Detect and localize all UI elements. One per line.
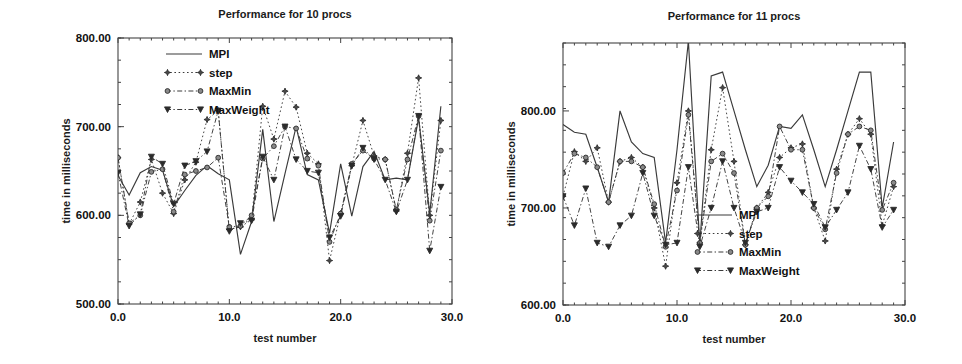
data-point-marker (316, 163, 321, 168)
data-point-marker (360, 117, 366, 123)
y-axis-tick-label: 500.00 (76, 298, 111, 310)
data-point-marker (149, 169, 154, 174)
data-point-marker (868, 167, 874, 173)
data-point-marker (617, 223, 623, 229)
data-point-marker (651, 213, 657, 219)
data-point-marker (652, 202, 657, 207)
data-point-marker (777, 124, 782, 129)
data-point-marker (857, 124, 862, 129)
data-point-marker (427, 212, 433, 218)
y-axis-tick-label: 800.00 (76, 32, 111, 44)
chart-title: Performance for 11 procs (668, 10, 801, 22)
y-axis-tick-label: 600.00 (76, 209, 111, 221)
x-axis-title: test number (254, 332, 318, 344)
data-point-marker (868, 128, 873, 133)
data-point-marker (800, 147, 805, 152)
data-point-marker (326, 257, 332, 263)
series-step (560, 85, 897, 270)
data-point-marker (606, 244, 612, 250)
data-point-marker (393, 209, 399, 215)
data-point-marker (427, 248, 433, 254)
data-point-marker (294, 126, 299, 131)
data-point-marker (304, 168, 310, 174)
data-point-marker (305, 156, 310, 161)
x-axis-tick-label: 10.0 (218, 311, 240, 323)
data-point-marker (160, 161, 166, 167)
data-point-marker (720, 151, 725, 156)
data-point-marker (271, 144, 276, 149)
data-point-marker (846, 132, 851, 137)
data-point-marker (583, 155, 588, 160)
data-point-marker (165, 89, 170, 94)
data-point-marker (182, 163, 188, 169)
series-line-mpi (563, 41, 894, 245)
data-point-marker (293, 157, 299, 163)
legend-label-step: step (739, 228, 763, 240)
data-point-marker (789, 147, 794, 152)
x-axis-tick-label: 20.0 (780, 312, 802, 324)
data-point-marker (571, 223, 577, 229)
data-point-marker (675, 188, 680, 193)
x-axis-tick-label: 10.0 (666, 312, 688, 324)
x-axis-tick-label: 0.0 (555, 312, 571, 324)
data-point-marker (629, 159, 634, 164)
data-point-marker (834, 207, 840, 213)
data-point-marker (709, 159, 714, 164)
chart-legend: MPIstepMaxMinMaxWeight (164, 48, 269, 116)
data-point-marker (697, 244, 703, 250)
data-point-marker (249, 213, 254, 218)
data-point-marker (561, 171, 566, 176)
data-point-marker (194, 169, 199, 174)
legend-label-step: step (209, 67, 233, 79)
data-point-marker (572, 151, 577, 156)
chart-svg: Performance for 10 procs500.00600.00700.… (0, 0, 481, 364)
legend-label-maxweight: MaxWeight (739, 265, 800, 277)
x-axis-tick-label: 30.0 (894, 312, 916, 324)
data-point-marker (845, 190, 851, 196)
x-axis-title: test number (703, 333, 767, 345)
chart-title: Performance for 10 procs (218, 8, 351, 20)
data-point-marker (891, 207, 897, 213)
series-line-maxmin (563, 115, 894, 247)
data-point-marker (293, 104, 299, 110)
data-point-marker (640, 165, 645, 170)
data-point-marker (891, 180, 896, 185)
data-point-marker (686, 112, 691, 117)
data-point-marker (731, 205, 737, 211)
y-axis-tick-label: 600.00 (521, 299, 556, 311)
data-point-marker (822, 238, 828, 244)
data-point-marker (315, 170, 321, 176)
data-point-marker (271, 136, 277, 142)
data-point-marker (197, 69, 203, 75)
legend-label-maxmin: MaxMin (209, 85, 251, 97)
series-mpi (563, 41, 894, 245)
series-maxweight (115, 108, 444, 254)
data-point-marker (856, 143, 862, 149)
y-axis-title: time in milliseconds (505, 121, 517, 226)
data-point-marker (834, 171, 839, 176)
data-point-marker (685, 165, 691, 171)
data-point-marker (766, 194, 771, 199)
data-point-marker (708, 147, 714, 153)
data-point-marker (159, 190, 165, 196)
legend-label-maxweight: MaxWeight (209, 104, 270, 116)
data-point-marker (438, 148, 443, 153)
data-point-marker (171, 209, 176, 214)
data-point-marker (728, 250, 733, 255)
data-point-marker (595, 165, 600, 170)
legend-label-maxmin: MaxMin (739, 246, 781, 258)
data-point-marker (606, 200, 611, 205)
data-point-marker (198, 89, 203, 94)
data-point-marker (226, 229, 232, 235)
data-point-marker (720, 159, 726, 165)
data-point-marker (216, 155, 221, 160)
data-point-marker (674, 180, 680, 186)
x-axis-tick-label: 30.0 (441, 311, 463, 323)
data-point-marker (438, 184, 444, 190)
data-point-marker (164, 69, 170, 75)
series-mpi (118, 106, 441, 254)
data-point-marker (304, 150, 310, 156)
data-point-marker (708, 205, 714, 211)
data-point-marker (856, 116, 862, 122)
data-point-marker (628, 213, 634, 219)
